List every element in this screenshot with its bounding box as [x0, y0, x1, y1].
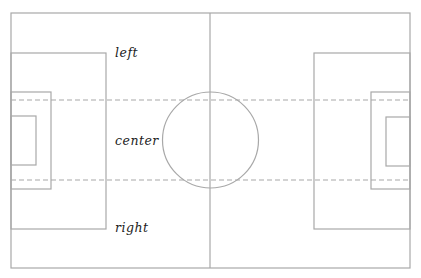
left-goal-area	[11, 92, 51, 189]
left-penalty-box	[11, 53, 106, 229]
soccer-field-diagram: left center right	[0, 0, 421, 278]
label-left: left	[115, 45, 139, 60]
right-goal-area	[371, 92, 410, 189]
label-center: center	[115, 133, 159, 148]
right-penalty-box	[314, 53, 410, 229]
left-goal-box	[11, 116, 36, 165]
label-right: right	[115, 220, 149, 235]
right-goal-box	[386, 117, 410, 166]
